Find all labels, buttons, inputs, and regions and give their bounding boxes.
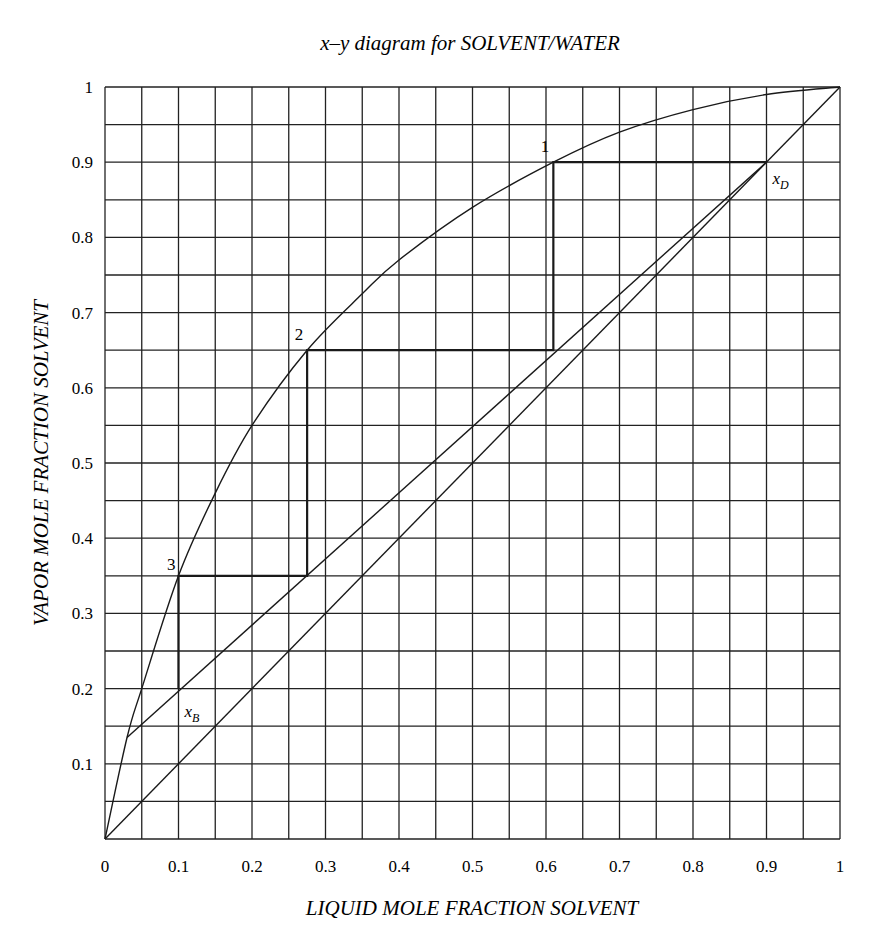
stream-label-xd: xD xyxy=(772,169,790,192)
y-tick-label: 0.3 xyxy=(72,604,93,623)
xy-diagram-chart: x–y diagram for SOLVENT/WATER 00.10.20.3… xyxy=(0,0,884,948)
y-tick-label: 1 xyxy=(85,78,94,97)
x-axis-label: LIQUID MOLE FRACTION SOLVENT xyxy=(305,896,640,920)
stream-label-xb: xB xyxy=(184,702,201,725)
y-tick-label: 0.1 xyxy=(72,755,93,774)
x-tick-label: 0.2 xyxy=(241,857,262,876)
x-tick-label: 0.8 xyxy=(682,857,703,876)
y-tick-label: 0.5 xyxy=(72,454,93,473)
stage-label-3: 3 xyxy=(167,555,176,574)
x-tick-label: 0 xyxy=(101,857,110,876)
x-axis-ticks: 00.10.20.30.40.50.60.70.80.91 xyxy=(101,857,845,876)
y-tick-label: 0.2 xyxy=(72,680,93,699)
y-tick-label: 0.9 xyxy=(72,153,93,172)
x-tick-label: 0.1 xyxy=(168,857,189,876)
y-tick-label: 0.4 xyxy=(72,529,94,548)
x-tick-label: 0.7 xyxy=(609,857,631,876)
y-tick-label: 0.6 xyxy=(72,379,93,398)
stage-label-1: 1 xyxy=(541,137,550,156)
y-axis-ticks: 0.10.20.30.40.50.60.70.80.91 xyxy=(72,78,94,774)
chart-title: x–y diagram for SOLVENT/WATER xyxy=(319,31,620,55)
x-tick-label: 0.4 xyxy=(388,857,410,876)
y-tick-label: 0.8 xyxy=(72,228,93,247)
x-tick-label: 1 xyxy=(836,857,845,876)
stage-label-2: 2 xyxy=(295,325,304,344)
x-tick-label: 0.5 xyxy=(462,857,483,876)
y-tick-label: 0.7 xyxy=(72,304,94,323)
y-axis-label: VAPOR MOLE FRACTION SOLVENT xyxy=(29,299,53,626)
x-tick-label: 0.3 xyxy=(315,857,336,876)
x-tick-label: 0.9 xyxy=(756,857,777,876)
x-tick-label: 0.6 xyxy=(535,857,556,876)
